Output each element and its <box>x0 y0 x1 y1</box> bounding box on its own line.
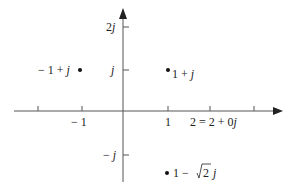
point-one-minus-root2-j: 1 − 2 j <box>165 164 217 180</box>
svg-text:1 + j: 1 + j <box>172 67 195 81</box>
svg-text:2: 2 <box>203 166 209 180</box>
tick-label-minus-one: − 1 <box>71 115 87 129</box>
real-axis-arrow-icon <box>273 107 283 115</box>
svg-text:1 −: 1 − <box>173 166 189 180</box>
point-one-plus-j: 1 + j <box>166 67 195 81</box>
imaginary-axis <box>119 8 127 182</box>
tick-label-one: 1 <box>165 115 171 129</box>
tick-label-minus-j: − j <box>103 148 117 162</box>
imaginary-axis-arrow-icon <box>119 8 127 19</box>
tick-label-2j: 2j <box>106 20 116 34</box>
tick-label-two: 2 = 2 + 0j <box>190 115 238 129</box>
real-ticks <box>38 106 254 111</box>
real-axis <box>14 107 283 115</box>
complex-plane-diagram: − 1 1 2 = 2 + 0j 2j j − j − 1 + j 1 + j … <box>0 0 295 195</box>
svg-text:− 1 + j: − 1 + j <box>38 63 71 77</box>
point-minus-one-plus-j: − 1 + j <box>38 63 82 77</box>
imaginary-ticks <box>123 27 129 155</box>
svg-text:j: j <box>211 166 217 180</box>
tick-label-j: j <box>109 63 115 77</box>
